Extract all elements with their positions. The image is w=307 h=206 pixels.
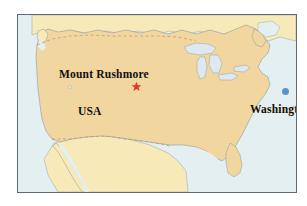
star-icon [131,81,141,91]
great-salt-lake [68,85,71,88]
capital-dot-marker [282,88,289,95]
label-washington: Washington [250,104,297,116]
label-usa: USA [78,106,102,118]
map-frame: Mount Rushmore USA Washington [17,14,297,193]
map-figure: Mount Rushmore USA Washington [0,0,307,206]
star-marker [131,81,142,92]
label-mount-rushmore: Mount Rushmore [59,69,149,81]
